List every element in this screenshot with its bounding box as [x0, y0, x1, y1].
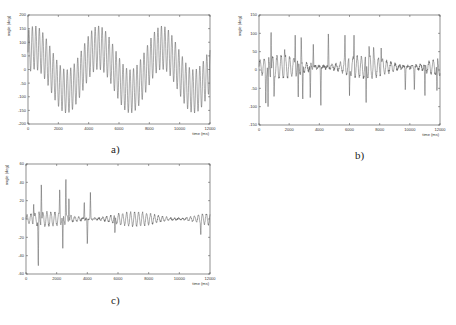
y-tick-label: 100 [250, 31, 257, 36]
y-tick-label: 50 [253, 49, 258, 54]
y-tick-label: -100 [249, 104, 258, 109]
y-tick-label: 60 [20, 161, 25, 166]
y-tick-label: 20 [20, 198, 25, 203]
x-tick-label: 6000 [114, 276, 124, 281]
y-tick-label: -40 [18, 253, 25, 258]
x-tick-label: 10000 [404, 127, 416, 132]
caption-c: c) [111, 294, 120, 306]
y-tick-label: -150 [249, 122, 258, 127]
y-tick-label: 40 [20, 180, 25, 185]
y-tick-label: -50 [251, 86, 258, 91]
y-tick-label: -20 [18, 235, 25, 240]
x-tick-label: 6000 [345, 127, 355, 132]
x-tick-label: 4000 [315, 127, 325, 132]
chart-b-series-line [259, 32, 440, 106]
x-tick-label: 2000 [285, 127, 295, 132]
y-tick-label: -60 [18, 271, 25, 276]
y-axis-label: angle (deg) [4, 164, 9, 185]
x-tick-label: 0 [258, 127, 261, 132]
y-axis-label: angle (deg) [237, 15, 242, 36]
caption-b: b) [355, 149, 364, 161]
x-tick-label: 0 [25, 276, 28, 281]
x-tick-label: 10000 [174, 276, 186, 281]
x-tick-label: 2000 [52, 276, 62, 281]
x-tick-label: 4000 [83, 276, 93, 281]
y-tick-label: 0 [22, 216, 25, 221]
x-axis-label: time (ms) [192, 281, 209, 286]
y-tick-label: 150 [250, 12, 257, 17]
x-tick-label: 8000 [375, 127, 385, 132]
x-axis-label: time (ms) [422, 132, 439, 137]
chart-c-plot: -60-40-200204060020004000600080001000012… [0, 0, 230, 290]
chart-b-frame [259, 15, 440, 125]
chart-c-series-line [26, 179, 210, 265]
chart-c: -60-40-200204060020004000600080001000012… [0, 0, 230, 290]
x-tick-label: 8000 [144, 276, 154, 281]
y-tick-label: 0 [255, 67, 258, 72]
